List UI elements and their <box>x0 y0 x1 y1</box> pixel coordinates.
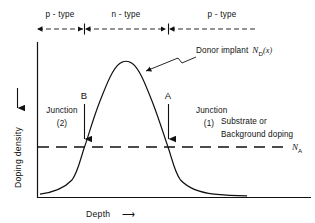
x-axis-label: Depth <box>86 209 110 219</box>
donor-implant-leader-line <box>146 57 196 71</box>
x-axis-arrow: ⟶ <box>122 209 135 219</box>
junction-marker-b: B <box>81 90 87 101</box>
substrate-label-line1: Substrate or <box>221 117 267 126</box>
substrate-label-line2: Background doping <box>221 130 294 139</box>
junction-2-label: Junction <box>46 106 78 115</box>
background-doping-symbol: NA <box>291 142 303 154</box>
region-extent-indicators <box>38 24 258 35</box>
junction-1-label: Junction <box>196 106 228 115</box>
junction-1-number: (1) <box>204 119 214 128</box>
donor-implant-label: Donor implantND(x) <box>196 45 272 57</box>
region-label-p-type-right: p - type <box>208 10 237 19</box>
donor-implant-curve <box>40 61 247 196</box>
y-axis-label: Doping density <box>13 127 23 188</box>
region-label-n-type: n - type <box>112 10 141 19</box>
junction-marker-a: A <box>165 90 172 101</box>
doping-profile-figure: p - type n - type p - type NA Donor impl… <box>0 0 315 223</box>
junction-2-number: (2) <box>57 119 67 128</box>
region-label-p-type-left: p - type <box>46 10 75 19</box>
